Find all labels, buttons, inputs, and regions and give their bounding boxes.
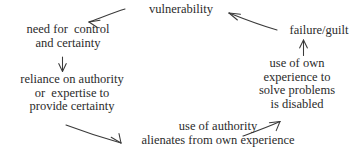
arrow-use-own-experience-to-failure-guilt	[300, 40, 308, 56]
node-need-for-control-line-2: and certainty	[8, 37, 128, 51]
node-use-of-own-experience-line-2: experience to	[245, 71, 349, 85]
node-use-of-own-experience: use of own experience to solve problems …	[245, 57, 349, 111]
node-use-of-authority-line-1: use of authority	[112, 120, 324, 134]
arrow-need-control-to-reliance	[59, 57, 67, 72]
node-vulnerability-line-1: vulnerability	[139, 3, 223, 17]
node-use-of-authority-line-2: alienates from own experience	[112, 134, 324, 148]
node-use-of-authority: use of authority alienates from own expe…	[112, 120, 324, 147]
node-need-for-control-line-1: need for control	[8, 23, 128, 37]
node-reliance-on-authority: reliance on authority or expertise to pr…	[4, 73, 140, 114]
node-reliance-on-authority-line-3: provide certainty	[4, 100, 140, 114]
node-reliance-on-authority-line-1: reliance on authority	[4, 73, 140, 87]
arrow-failure-guilt-to-vulnerability	[229, 13, 277, 30]
node-use-of-own-experience-line-3: solve problems	[245, 84, 349, 98]
node-failure-guilt-line-1: failure/guilt	[280, 24, 358, 38]
node-need-for-control: need for control and certainty	[8, 23, 128, 50]
node-reliance-on-authority-line-2: or expertise to	[4, 87, 140, 101]
node-vulnerability: vulnerability	[139, 3, 223, 17]
diagram-canvas: vulnerability failure/guilt need for con…	[0, 0, 361, 163]
node-use-of-own-experience-line-1: use of own	[245, 57, 349, 71]
node-use-of-own-experience-line-4: is disabled	[245, 98, 349, 112]
node-failure-guilt: failure/guilt	[280, 24, 358, 38]
